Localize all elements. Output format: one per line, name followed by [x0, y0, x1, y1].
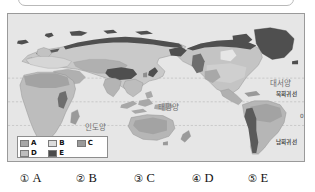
answer-option-4[interactable]: ④ D: [192, 171, 213, 186]
legend-label-a: A: [31, 139, 36, 148]
atlantic-island-dot: [292, 60, 298, 64]
option-number-2: ②: [76, 172, 85, 184]
philippines: [145, 91, 153, 99]
arctic-island-east: [135, 31, 153, 35]
option-number-1: ①: [20, 172, 29, 184]
atlantic-ocean-label: 대서양: [270, 77, 292, 88]
legend-row: D E: [20, 149, 105, 158]
legend-label-d: D: [31, 149, 37, 158]
legend-swatch-a: [20, 140, 29, 147]
answer-option-3[interactable]: ③ C: [134, 171, 155, 186]
legend-item-empty: [77, 149, 105, 158]
tropic-of-cancer-label: 북회귀선: [276, 90, 297, 98]
world-map-frame: 태평양 인도양 대서양 북회귀선 0° 남회귀선 A B: [7, 13, 305, 162]
tropic-of-capricorn-label: 남회귀선: [276, 138, 297, 146]
indonesia-borneo: [138, 99, 153, 107]
legend-label-b: B: [59, 139, 64, 148]
arctic-island-small: [103, 30, 117, 34]
answer-option-2[interactable]: ② B: [76, 171, 97, 186]
svalbard-island: [45, 33, 54, 38]
india-subcontinent: [103, 78, 121, 97]
indian-ocean-label: 인도양: [85, 121, 107, 132]
southeast-asia: [123, 79, 143, 97]
legend-swatch-e: [48, 150, 57, 157]
option-label-1: A: [32, 171, 41, 186]
option-number-4: ④: [192, 172, 201, 184]
option-number-5: ⑤: [248, 172, 257, 184]
new-zealand: [181, 130, 191, 142]
option-number-3: ③: [134, 172, 143, 184]
equator-label: 0°: [300, 113, 305, 119]
legend-item-e: E: [48, 149, 76, 158]
legend-item-c: C: [77, 139, 105, 148]
answer-option-1[interactable]: ① A: [20, 171, 41, 186]
map-canvas: 태평양 인도양 대서양 북회귀선 0° 남회귀선 A B: [8, 14, 304, 161]
option-label-3: C: [146, 171, 154, 186]
caribbean-islands: [244, 91, 260, 97]
iceland: [17, 40, 29, 45]
legend-swatch-b: [48, 140, 57, 147]
question-stem-box: [18, 0, 294, 6]
legend-item-a: A: [20, 139, 48, 148]
central-america: [221, 89, 243, 105]
pacific-ocean-label: 태평양: [158, 101, 180, 112]
map-legend: A B C D: [17, 136, 108, 158]
answer-option-5[interactable]: ⑤ E: [248, 171, 268, 186]
legend-label-e: E: [59, 149, 64, 158]
novaya-zemlya: [70, 31, 88, 36]
indonesia-java: [131, 109, 147, 114]
madagascar: [71, 110, 80, 125]
legend-item-b: B: [48, 139, 76, 148]
exam-question-figure: 태평양 인도양 대서양 북회귀선 0° 남회귀선 A B: [0, 0, 315, 192]
legend-swatch-d: [20, 150, 29, 157]
option-label-5: E: [260, 171, 268, 186]
legend-item-d: D: [20, 149, 48, 158]
legend-swatch-c: [77, 140, 86, 147]
tasmania: [163, 141, 168, 145]
option-label-4: D: [204, 171, 213, 186]
legend-row: A B C: [20, 139, 105, 148]
answer-options: ① A ② B ③ C ④ D ⑤ E: [0, 164, 315, 192]
legend-label-c: C: [88, 139, 93, 148]
option-label-2: B: [88, 171, 96, 186]
